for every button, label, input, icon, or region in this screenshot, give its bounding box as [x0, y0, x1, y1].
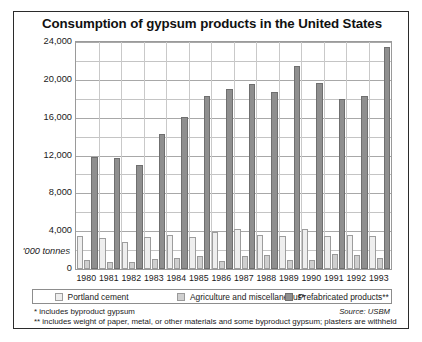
bar[interactable] — [332, 254, 338, 269]
bar[interactable] — [302, 229, 308, 269]
bar-group — [256, 42, 279, 269]
legend-swatch-icon — [285, 293, 293, 301]
bar[interactable] — [384, 47, 390, 269]
source-label: Source: USBM — [339, 307, 390, 316]
x-axis-labels: 1980198119821983198419851986198719881989… — [75, 273, 392, 287]
bar-group — [279, 42, 302, 269]
bar[interactable] — [316, 83, 322, 269]
legend-item[interactable]: Portland cement — [55, 290, 129, 303]
bar[interactable] — [279, 236, 285, 269]
y-axis-tick-label: 4,000 — [16, 225, 72, 235]
x-axis-tick-label: 1987 — [234, 273, 254, 283]
chart-figure: Consumption of gypsum products in the Un… — [13, 11, 409, 329]
bar[interactable] — [324, 236, 330, 269]
bar[interactable] — [377, 258, 383, 269]
bar[interactable] — [99, 238, 105, 269]
x-axis-tick-label: 1988 — [256, 273, 276, 283]
bar[interactable] — [264, 255, 270, 269]
bar-group — [346, 42, 369, 269]
bar[interactable] — [136, 165, 142, 269]
x-axis-tick-label: 1984 — [166, 273, 186, 283]
legend-swatch-icon — [177, 293, 185, 301]
y-axis-tick-label: 8,000 — [16, 187, 72, 197]
x-axis-tick-label: 1983 — [144, 273, 164, 283]
bar[interactable] — [77, 236, 83, 269]
bar-group — [144, 42, 167, 269]
bar[interactable] — [84, 260, 90, 269]
x-axis-tick-label: 1992 — [346, 273, 366, 283]
plot-area — [75, 41, 392, 270]
bar[interactable] — [354, 255, 360, 269]
bar[interactable] — [287, 260, 293, 269]
bar[interactable] — [219, 261, 225, 270]
bar[interactable] — [369, 236, 375, 269]
bar-group — [166, 42, 189, 269]
bar[interactable] — [144, 237, 150, 269]
y-axis-tick-label: 24,000 — [16, 36, 72, 46]
x-axis-tick-label: 1991 — [324, 273, 344, 283]
y-axis-labels: 24,00020,00016,00012,0008,0004,0000 — [14, 41, 72, 270]
legend-swatch-icon — [55, 293, 63, 301]
y-axis-tick-label: 20,000 — [16, 74, 72, 84]
bar[interactable] — [159, 134, 165, 269]
bar[interactable] — [107, 262, 113, 269]
bar[interactable] — [339, 99, 345, 269]
y-axis-tick-label: 16,000 — [16, 112, 72, 122]
bar[interactable] — [181, 117, 187, 269]
chart-legend: Portland cementAgriculture and miscellan… — [32, 289, 392, 304]
bar[interactable] — [234, 229, 240, 269]
x-axis-tick-label: 1982 — [121, 273, 141, 283]
bar[interactable] — [309, 260, 315, 269]
chart-title: Consumption of gypsum products in the Un… — [14, 16, 410, 31]
y-axis-tick-label: 12,000 — [16, 150, 72, 160]
bar[interactable] — [226, 89, 232, 269]
bar-group — [189, 42, 212, 269]
bar-group — [76, 42, 99, 269]
footnote-2: ** includes weight of paper, metal, or o… — [34, 317, 397, 326]
x-axis-tick-label: 1990 — [301, 273, 321, 283]
x-axis-tick-label: 1986 — [211, 273, 231, 283]
bar[interactable] — [347, 235, 353, 269]
x-axis-tick-label: 1980 — [76, 273, 96, 283]
bar[interactable] — [152, 259, 158, 269]
bar[interactable] — [204, 96, 210, 269]
bar-group — [234, 42, 257, 269]
y-axis-tick-label: 0 — [16, 263, 72, 273]
bar[interactable] — [361, 96, 367, 269]
x-axis-tick-label: 1985 — [189, 273, 209, 283]
bar[interactable] — [129, 262, 135, 269]
legend-label: Portland cement — [68, 292, 129, 302]
bar[interactable] — [197, 256, 203, 269]
y-axis-unit-label: '000 tonnes — [14, 246, 70, 256]
bar[interactable] — [212, 232, 218, 269]
bar[interactable] — [294, 66, 300, 269]
footnote-1: * includes byproduct gypsum — [34, 307, 135, 316]
bar[interactable] — [249, 84, 255, 269]
bar-group — [99, 42, 122, 269]
bar[interactable] — [122, 242, 128, 269]
bar-group — [121, 42, 144, 269]
bar-group — [324, 42, 347, 269]
bar-group — [211, 42, 234, 269]
x-axis-tick-label: 1989 — [279, 273, 299, 283]
bar[interactable] — [167, 235, 173, 269]
x-axis-tick-label: 1981 — [99, 273, 119, 283]
bar[interactable] — [242, 256, 248, 269]
bar[interactable] — [114, 158, 120, 269]
bar[interactable] — [174, 258, 180, 269]
bar[interactable] — [271, 92, 277, 269]
bar[interactable] — [189, 237, 195, 269]
x-axis-tick-label: 1993 — [369, 273, 389, 283]
legend-item[interactable]: Prefabricated products** — [285, 290, 389, 303]
bar[interactable] — [257, 235, 263, 269]
legend-label: Prefabricated products** — [298, 292, 389, 302]
bar[interactable] — [91, 157, 97, 269]
bar-group — [369, 42, 392, 269]
bar-group — [301, 42, 324, 269]
